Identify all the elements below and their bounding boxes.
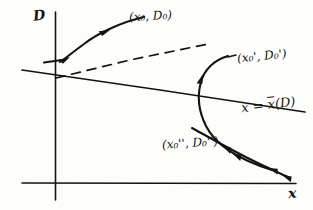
x-axis-line (22, 183, 296, 184)
xbar-label-x: x (240, 99, 249, 115)
xbar-label-equals: = (252, 98, 265, 114)
point-label-0: (x₀, D₀) (129, 9, 173, 23)
phase-diagram-figure: D x (x₀, D₀) (x₀', D₀') (x₀'', D₀'') x =… (0, 0, 313, 210)
middle-label-leader (228, 55, 236, 57)
x-axis-label: x (287, 186, 297, 201)
point-label-2: (x₀'', D₀'') (162, 135, 219, 151)
d-axis-label: D (32, 7, 46, 22)
xbar-label-function-arg: (D) (274, 94, 296, 111)
